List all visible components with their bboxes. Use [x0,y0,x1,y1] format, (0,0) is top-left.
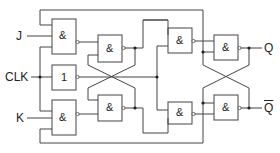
input-label-j: J [16,30,22,42]
gate-symbol-j: & [59,30,66,41]
output-label-q: Q [264,42,273,54]
gate-symbol-master-lower: & [106,102,113,113]
circuit-diagram [0,0,280,153]
output-label-q-bar: Q [264,102,273,114]
gate-symbol-clk: 1 [61,72,67,83]
gate-symbol-qbar: & [222,102,229,113]
gate-symbol-slave-upper: & [176,35,183,46]
gate-symbol-slave-lower: & [176,107,183,118]
input-label-clk: CLK [5,71,28,83]
gate-symbol-master-upper: & [106,43,113,54]
gate-symbol-k: & [59,112,66,123]
input-label-k: K [16,112,24,124]
gate-symbol-q: & [222,42,229,53]
